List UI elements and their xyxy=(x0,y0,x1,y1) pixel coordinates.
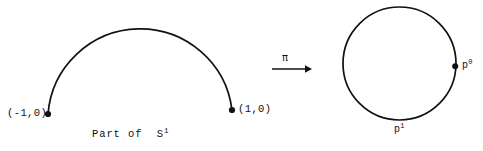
figure-canvas: (-1,0) (1,0) Part of S1 π p0 p1 xyxy=(0,0,483,151)
point-p0-dot xyxy=(452,63,458,69)
point-p1-label: p1 xyxy=(394,125,405,135)
caption-spacer xyxy=(142,128,156,140)
caption-text: Part of xyxy=(92,128,142,140)
diagram-vector-graphics xyxy=(0,0,483,151)
point-p0-label: p0 xyxy=(462,61,473,71)
arc-left-endpoint-label: (-1,0) xyxy=(7,108,47,119)
target-circle xyxy=(343,7,456,120)
point-p1-exponent: 1 xyxy=(400,122,405,130)
arc-right-endpoint-dot xyxy=(229,107,235,113)
map-arrow-head xyxy=(305,65,312,72)
map-arrow-label: π xyxy=(282,53,288,63)
map-arrow-group xyxy=(272,65,312,72)
left-panel-caption: Part of S1 xyxy=(92,129,169,140)
caption-symbol: S xyxy=(157,128,164,140)
caption-symbol-exponent: 1 xyxy=(164,127,169,135)
target-circle-group xyxy=(343,7,458,120)
semicircular-arc-group xyxy=(45,29,235,117)
arc-right-endpoint-label: (1,0) xyxy=(238,104,272,115)
point-p0-exponent: 0 xyxy=(468,58,473,66)
semicircular-arc xyxy=(48,29,232,114)
